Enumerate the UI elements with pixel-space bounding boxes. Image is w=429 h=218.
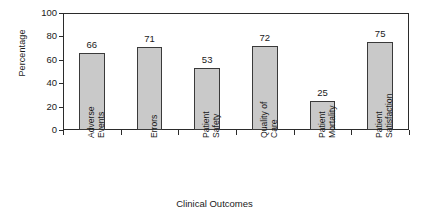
x-axis-category-label-line: Quality of — [260, 102, 270, 138]
x-axis-category-label: AdverseEvents — [87, 106, 106, 138]
x-axis-category-label: Errors — [150, 115, 160, 138]
x-axis-category-label-line: Safety — [212, 111, 222, 138]
x-axis-category-label: PatientSafety — [202, 111, 221, 138]
y-axis-tick-label: 40 — [31, 78, 57, 88]
x-axis-category-label-line: Adverse — [87, 106, 97, 138]
y-axis-tick-label: 60 — [31, 55, 57, 65]
bar-value-label: 66 — [87, 40, 98, 50]
y-axis-tick-label: 100 — [31, 8, 57, 18]
x-axis-category-label-line: Care — [269, 102, 279, 138]
bar-value-label: 71 — [144, 34, 155, 44]
x-axis-tick-mark — [351, 130, 352, 135]
bar-slot: 71 — [137, 13, 162, 130]
x-axis-category-label-line: Patient — [318, 106, 328, 138]
x-axis-category-label-line: Events — [96, 106, 106, 138]
bar-value-label: 53 — [202, 55, 213, 65]
x-axis-category-label: Quality ofCare — [260, 102, 279, 138]
x-axis-title: Clinical Outcomes — [0, 198, 429, 209]
x-axis-tick-mark — [236, 130, 237, 135]
bar-value-label: 75 — [375, 29, 386, 39]
x-axis-tick-mark — [121, 130, 122, 135]
x-axis-category-label: PatientSatisfaction — [375, 94, 394, 138]
x-axis-tick-mark — [294, 130, 295, 135]
bar-value-label: 72 — [260, 33, 271, 43]
y-axis-tick-label: 20 — [31, 102, 57, 112]
x-axis-category-label-line: Mortality — [327, 106, 337, 138]
x-axis-category-label-line: Satisfaction — [385, 94, 395, 138]
x-axis-tick-mark — [178, 130, 179, 135]
y-axis-tick-label: 0 — [31, 125, 57, 135]
bar-chart: Percentage 020406080100 667153722575 Adv… — [0, 0, 429, 218]
x-axis-tick-mark — [409, 130, 410, 135]
bars-layer: 667153722575 — [63, 13, 409, 130]
x-axis-category-label: PatientMortality — [318, 106, 337, 138]
y-axis-tick-label: 80 — [31, 31, 57, 41]
y-axis-tick-labels: 020406080100 — [31, 0, 57, 218]
bar-value-label: 25 — [317, 88, 328, 98]
y-axis-title: Percentage — [17, 13, 27, 93]
x-axis-tick-mark — [63, 130, 64, 135]
x-axis-category-label-line: Errors — [150, 115, 160, 138]
